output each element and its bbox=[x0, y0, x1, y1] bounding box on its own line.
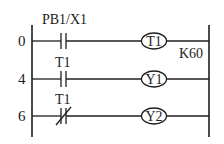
coil-label: T1 bbox=[146, 34, 162, 49]
step-number: 6 bbox=[18, 108, 26, 124]
contact-label: T1 bbox=[55, 55, 71, 70]
step-number: 4 bbox=[18, 71, 26, 87]
ladder-diagram: 0 PB1/X1 T1 K60 4 T1 Y1 6 T1 bbox=[0, 0, 224, 144]
contact-label: PB1/X1 bbox=[42, 12, 87, 27]
contact-label: T1 bbox=[55, 92, 71, 107]
normally-open-contact-icon bbox=[61, 71, 66, 87]
coil-label: Y1 bbox=[145, 72, 162, 87]
coil-label: Y2 bbox=[145, 109, 162, 124]
normally-open-contact-icon bbox=[61, 33, 66, 49]
rung-0: 0 PB1/X1 T1 K60 bbox=[18, 12, 209, 61]
timer-preset: K60 bbox=[179, 46, 203, 61]
rung-6: 6 T1 Y2 bbox=[18, 92, 209, 125]
step-number: 0 bbox=[18, 33, 26, 49]
